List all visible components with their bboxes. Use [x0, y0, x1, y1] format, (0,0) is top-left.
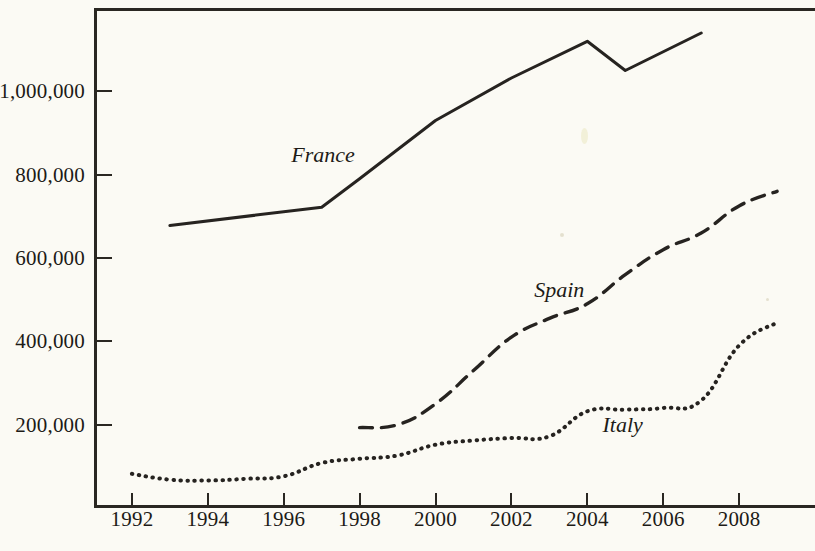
x-axis-tick-label: 2002: [490, 507, 533, 532]
figure-canvas: 200,000400,000600,000800,0001,000,000 19…: [0, 0, 815, 551]
series-label-italy: Italy: [602, 412, 642, 438]
series-label-france: France: [291, 142, 355, 168]
series-line-spain: [360, 191, 777, 428]
x-axis-tick-label: 1992: [111, 507, 154, 532]
y-axis-tick-label: 400,000: [15, 329, 85, 354]
series-layer: [94, 8, 815, 508]
x-axis-tick-label: 2004: [566, 507, 609, 532]
x-axis-tick-label: 2006: [642, 507, 685, 532]
x-axis-tick-label: 2000: [414, 507, 457, 532]
y-axis-tick-label: 800,000: [15, 162, 85, 187]
series-label-spain: Spain: [534, 277, 584, 303]
y-axis-tick-label: 600,000: [15, 246, 85, 271]
x-axis-tick-label: 1996: [262, 507, 305, 532]
y-axis-tick-label: 1,000,000: [0, 79, 85, 104]
x-axis-tick-label: 1998: [338, 507, 381, 532]
x-axis-tick-label: 2008: [718, 507, 761, 532]
series-line-italy: [132, 323, 777, 481]
x-axis-tick-label: 1994: [186, 507, 229, 532]
y-axis-tick-label: 200,000: [15, 412, 85, 437]
series-line-france: [170, 33, 701, 226]
plot-area: 200,000400,000600,000800,0001,000,000 19…: [94, 8, 815, 508]
